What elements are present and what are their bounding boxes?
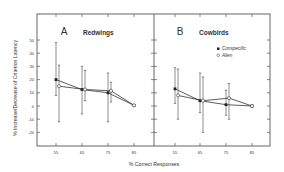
series-line-alien <box>178 95 252 106</box>
x-tick-label: 55 <box>54 150 59 155</box>
marker-open <box>83 88 86 91</box>
series-line-conspecific <box>56 80 134 106</box>
y-axis: 50403020100-10-20 <box>28 38 270 135</box>
y-tick-label: -20 <box>28 130 35 135</box>
chart: 50403020100-10-20 55657585ARedwings55657… <box>0 0 284 172</box>
y-tick-label: -10 <box>28 117 35 122</box>
frame-border <box>37 14 270 146</box>
x-tick-label: 75 <box>224 150 229 155</box>
y-tick-label: 40 <box>30 51 35 56</box>
y-tick-label: 50 <box>30 38 35 43</box>
marker-open <box>57 85 60 88</box>
legend-alien: Alien <box>221 53 233 58</box>
marker-open <box>250 104 253 107</box>
panel-cowbirds: 55657585BCowbirds <box>173 14 255 155</box>
marker-filled <box>107 91 110 94</box>
y-tick-label: 10 <box>30 90 35 95</box>
y-tick-label: 20 <box>30 77 35 82</box>
panel-redwings: 55657585ARedwings <box>54 14 137 155</box>
legend-open-marker <box>217 54 220 57</box>
x-tick-label: 85 <box>132 150 137 155</box>
marker-open <box>227 96 230 99</box>
panel-title: Redwings <box>83 29 114 37</box>
marker-open <box>109 89 112 92</box>
marker-filled <box>55 78 58 81</box>
y-axis-label: % Increase/Decrease of Criterion Latency <box>12 40 18 136</box>
x-axis-label: % Correct Responses <box>129 161 180 167</box>
legend: ConspecificAlien <box>217 46 246 58</box>
y-tick-label: 30 <box>30 64 35 69</box>
panel-letter: A <box>61 26 68 37</box>
marker-open <box>201 99 204 102</box>
x-tick-label: 65 <box>80 150 85 155</box>
x-tick-label: 75 <box>106 150 111 155</box>
marker-filled <box>225 103 228 106</box>
panel-letter: B <box>177 26 184 37</box>
marker-open <box>132 104 135 107</box>
panel-title: Cowbirds <box>199 29 229 36</box>
marker-filled <box>174 87 177 90</box>
marker-open <box>176 94 179 97</box>
x-tick-label: 65 <box>198 150 203 155</box>
x-tick-label: 55 <box>173 150 178 155</box>
legend-filled-marker <box>217 48 220 51</box>
x-tick-label: 85 <box>250 150 255 155</box>
y-tick-label: 0 <box>32 104 35 109</box>
plot-frame <box>37 14 270 146</box>
series-line-alien <box>59 86 134 105</box>
legend-conspecific: Conspecific <box>222 46 246 51</box>
